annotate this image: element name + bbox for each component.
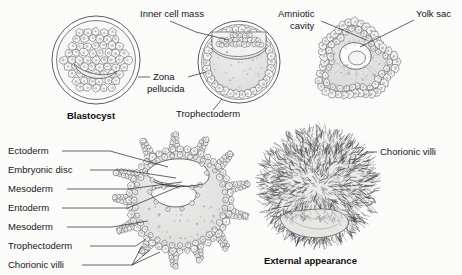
panel-blastocyst-early <box>52 16 140 104</box>
label-yolk-sac: Yolk sac <box>416 8 451 19</box>
label-chorionic-villi-right: Chorionic villi <box>380 146 436 157</box>
label-chorionic-villi-left: Chorionic villi <box>8 259 64 270</box>
label-blastocyst-caption: Blastocyst <box>67 110 116 121</box>
figure-canvas: Inner cell massZonapellucidaTrophectoder… <box>0 0 462 275</box>
label-trophectoderm-top: Trophectoderm <box>176 108 240 119</box>
label-entoderm: Entoderm <box>8 202 49 213</box>
label-external-appearance: External appearance <box>264 255 357 266</box>
label-embryonic-disc: Embryonic disc <box>8 164 73 175</box>
panel-blastocyst-late <box>198 21 280 103</box>
label-ectoderm: Ectoderm <box>8 145 49 156</box>
label-mesoderm-lower: Mesoderm <box>8 221 53 232</box>
label-zona-pellucida-line2: pellucida <box>147 83 185 94</box>
embryology-diagram: Inner cell massZonapellucidaTrophectoder… <box>0 0 462 275</box>
label-amniotic-cavity-line1: Amniotic <box>278 8 315 19</box>
label-trophectoderm-bottom: Trophectoderm <box>8 240 72 251</box>
label-inner-cell-mass: Inner cell mass <box>140 8 204 19</box>
label-zona-pellucida-line1: Zona <box>153 71 175 82</box>
label-mesoderm-upper: Mesoderm <box>8 183 53 194</box>
label-amniotic-cavity-line2: cavity <box>290 20 315 31</box>
